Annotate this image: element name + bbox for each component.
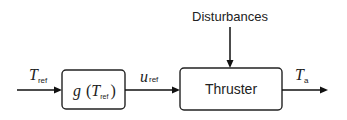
disturbances-label: Disturbances — [192, 9, 268, 24]
block-diagram: Tref g(Tref) uref Disturbances Thruster … — [0, 0, 347, 120]
disturbance-arrow — [227, 27, 234, 68]
output-label: Ta — [295, 66, 309, 85]
thruster-label: Thruster — [205, 81, 257, 97]
output-arrow — [282, 87, 328, 94]
uref-arrow — [125, 87, 180, 94]
input-label: Tref — [29, 66, 48, 85]
uref-label: uref — [140, 68, 159, 85]
input-arrow — [17, 87, 62, 94]
